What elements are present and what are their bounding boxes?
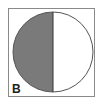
panel-label: B (12, 83, 21, 95)
shaded-half (13, 12, 53, 92)
